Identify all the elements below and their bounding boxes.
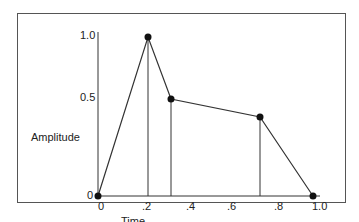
x-tick-label: .4 bbox=[186, 200, 195, 212]
frame bbox=[18, 14, 346, 203]
data-point bbox=[257, 114, 264, 121]
y-tick-label: 0.5 bbox=[80, 91, 95, 103]
data-point bbox=[168, 96, 175, 103]
x-tick-label: .6 bbox=[227, 200, 236, 212]
data-point bbox=[145, 34, 152, 41]
y-tick-label: 0 bbox=[87, 189, 93, 201]
y-tick-label: 1.0 bbox=[80, 29, 95, 41]
envelope-diagram bbox=[0, 0, 359, 222]
data-point bbox=[310, 193, 317, 200]
x-tick-label: .2 bbox=[142, 200, 151, 212]
x-tick-label: .8 bbox=[274, 200, 283, 212]
x-tick-label: 0 bbox=[98, 200, 104, 212]
envelope-line bbox=[98, 37, 313, 196]
y-axis-title: Amplitude bbox=[31, 131, 80, 143]
x-tick-label: 1.0 bbox=[312, 200, 327, 212]
data-point bbox=[95, 193, 102, 200]
x-axis-title: Time bbox=[121, 215, 145, 222]
